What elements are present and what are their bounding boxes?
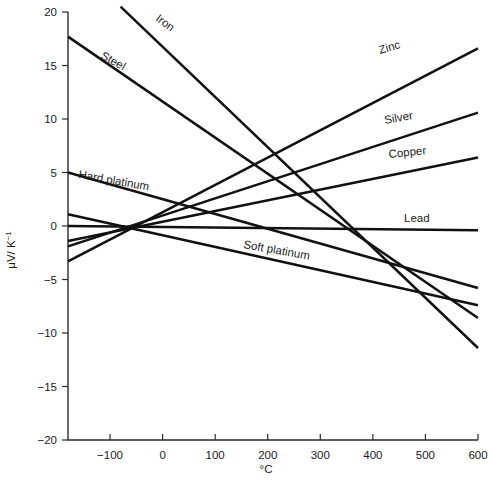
- x-tick-label: 0: [159, 449, 165, 461]
- series-label-iron: Iron: [154, 12, 177, 33]
- y-tick-label: 10: [44, 113, 57, 125]
- y-tick-label: −20: [37, 434, 57, 446]
- series-line-iron: [121, 7, 478, 348]
- x-tick-label: 500: [416, 449, 435, 461]
- svg-text:μV/ K−1: μV/ K−1: [4, 231, 17, 269]
- x-tick-label: 400: [363, 449, 382, 461]
- y-tick-label: 20: [44, 6, 57, 18]
- y-tick-label: 15: [44, 60, 57, 72]
- svg-text:Zinc: Zinc: [377, 38, 401, 56]
- x-tick-label: 300: [311, 449, 330, 461]
- series-label-soft-platinum: Soft platinum: [243, 238, 311, 261]
- svg-text:Silver: Silver: [383, 109, 414, 126]
- thermoelectric-chart: 20151050−5−10−15−20 −1000100200300400500…: [0, 0, 493, 485]
- series-label-hard-platinum: Hard platinum: [78, 168, 151, 192]
- svg-text:Soft platinum: Soft platinum: [243, 238, 311, 261]
- x-axis-ticks: −1000100200300400500600: [97, 434, 487, 461]
- y-tick-label: −15: [37, 381, 57, 393]
- y-tick-label: 0: [51, 220, 57, 232]
- y-tick-label: −10: [37, 327, 57, 339]
- x-tick-label: 200: [258, 449, 277, 461]
- chart-svg: 20151050−5−10−15−20 −1000100200300400500…: [0, 0, 493, 485]
- series-label-silver: Silver: [383, 109, 414, 126]
- x-axis-title: °C: [260, 463, 273, 475]
- y-tick-label: 5: [51, 167, 57, 179]
- x-tick-label: 600: [468, 449, 487, 461]
- y-axis-ticks: 20151050−5−10−15−20: [37, 6, 68, 446]
- svg-text:Iron: Iron: [154, 12, 177, 33]
- series-label-zinc: Zinc: [377, 38, 401, 56]
- y-axis-title-exponent: −1: [4, 231, 13, 241]
- svg-text:Copper: Copper: [388, 144, 427, 160]
- y-axis-title-base: μV/ K: [5, 240, 17, 269]
- series-label-copper: Copper: [388, 144, 427, 160]
- x-tick-label: 100: [206, 449, 225, 461]
- y-axis-title: μV/ K−1: [4, 231, 17, 269]
- x-tick-label: −100: [97, 449, 123, 461]
- svg-text:Hard platinum: Hard platinum: [78, 168, 151, 192]
- svg-text:Lead: Lead: [404, 212, 430, 224]
- series-label-lead: Lead: [404, 212, 430, 224]
- y-tick-label: −5: [44, 274, 57, 286]
